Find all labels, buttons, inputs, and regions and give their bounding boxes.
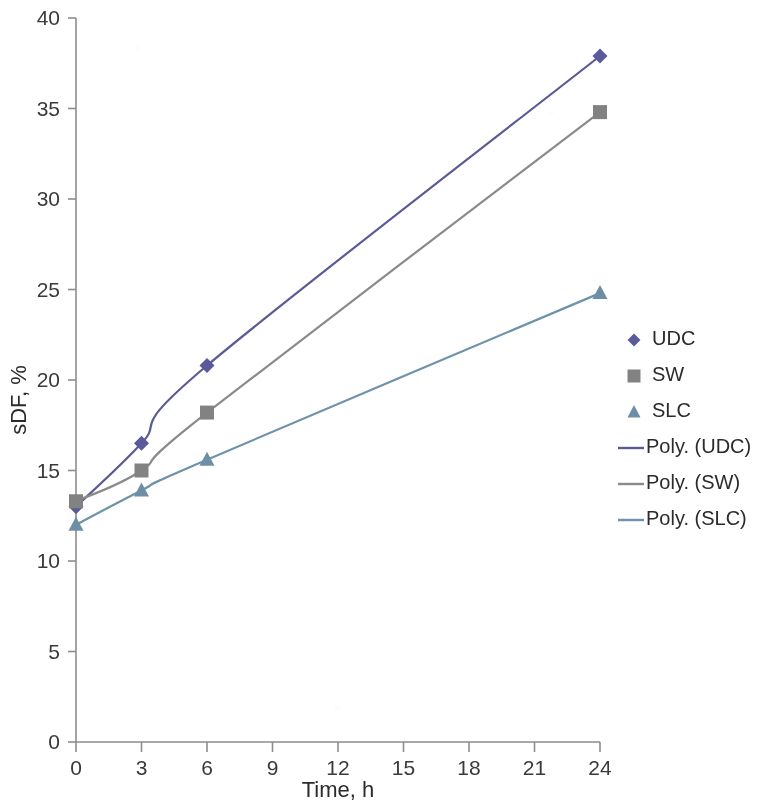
legend-item-label: Poly. (SLC) bbox=[646, 507, 747, 529]
y-tick-label: 25 bbox=[37, 278, 60, 301]
legend-item-poly-sw[interactable]: Poly. (SW) bbox=[618, 471, 740, 493]
legend-item-label: Poly. (UDC) bbox=[646, 435, 751, 457]
legend-item-label: SLC bbox=[652, 399, 691, 421]
y-tick-label: 40 bbox=[37, 6, 60, 29]
legend-square-icon bbox=[628, 370, 641, 383]
y-tick-label: 0 bbox=[48, 730, 60, 753]
legend-item-sw[interactable]: SW bbox=[628, 363, 685, 385]
data-point-slc bbox=[593, 285, 608, 299]
trend-line-sw bbox=[76, 112, 600, 501]
data-point-slc bbox=[69, 517, 84, 531]
x-axis-ticks: 03691215182124 bbox=[70, 742, 612, 779]
chart-canvas: sDF, % Time, h 0510152025303540 03691215… bbox=[0, 0, 766, 805]
x-tick-label: 18 bbox=[457, 756, 480, 779]
legend-item-udc[interactable]: UDC bbox=[628, 327, 696, 349]
data-point-slc bbox=[134, 482, 149, 496]
legend-item-poly-udc[interactable]: Poly. (UDC) bbox=[618, 435, 751, 457]
y-axis-title: sDF, % bbox=[6, 365, 31, 435]
chart-legend[interactable]: UDCSWSLCPoly. (UDC)Poly. (SW)Poly. (SLC) bbox=[618, 327, 751, 529]
x-tick-label: 15 bbox=[392, 756, 415, 779]
legend-triangle-icon bbox=[628, 405, 641, 418]
x-tick-label: 21 bbox=[523, 756, 546, 779]
data-point-sw bbox=[135, 464, 149, 478]
y-tick-label: 30 bbox=[37, 187, 60, 210]
legend-item-label: Poly. (SW) bbox=[646, 471, 740, 493]
legend-diamond-icon bbox=[628, 334, 641, 347]
data-point-slc bbox=[200, 452, 215, 466]
legend-item-poly-slc[interactable]: Poly. (SLC) bbox=[618, 507, 747, 529]
x-tick-label: 6 bbox=[201, 756, 213, 779]
y-tick-label: 35 bbox=[37, 97, 60, 120]
x-tick-label: 24 bbox=[588, 756, 612, 779]
trend-lines-group bbox=[76, 56, 600, 525]
y-tick-label: 20 bbox=[37, 368, 60, 391]
y-tick-label: 15 bbox=[37, 459, 60, 482]
chart-figure: sDF, % Time, h 0510152025303540 03691215… bbox=[0, 0, 766, 805]
x-axis-title: Time, h bbox=[302, 777, 375, 802]
data-point-sw bbox=[69, 494, 83, 508]
data-markers-group bbox=[69, 49, 608, 531]
y-axis-ticks: 0510152025303540 bbox=[37, 6, 76, 753]
data-point-sw bbox=[593, 105, 607, 119]
x-tick-label: 9 bbox=[267, 756, 279, 779]
legend-item-slc[interactable]: SLC bbox=[628, 399, 691, 421]
x-tick-label: 12 bbox=[326, 756, 349, 779]
x-tick-label: 0 bbox=[70, 756, 82, 779]
trend-line-slc bbox=[76, 293, 600, 525]
y-tick-label: 10 bbox=[37, 549, 60, 572]
legend-item-label: SW bbox=[652, 363, 684, 385]
y-tick-label: 5 bbox=[48, 640, 60, 663]
data-point-sw bbox=[200, 406, 214, 420]
x-tick-label: 3 bbox=[136, 756, 148, 779]
trend-line-udc bbox=[76, 56, 600, 507]
legend-item-label: UDC bbox=[652, 327, 695, 349]
